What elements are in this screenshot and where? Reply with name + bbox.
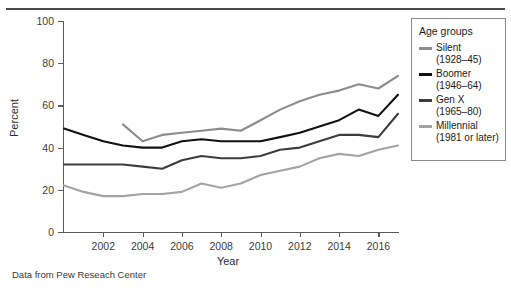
legend-color-swatch bbox=[419, 99, 432, 102]
x-tick-label: 2010 bbox=[241, 240, 281, 252]
y-tick-label: 0 bbox=[24, 227, 54, 237]
x-tick-mark bbox=[339, 232, 340, 237]
y-axis-label: Percent bbox=[8, 88, 20, 148]
legend-item-label: Millennial bbox=[436, 120, 499, 132]
chart-figure: 020406080100 200220042006200820102012201… bbox=[0, 0, 511, 294]
x-tick-label: 2016 bbox=[358, 240, 398, 252]
x-tick-label: 2006 bbox=[162, 240, 202, 252]
x-tick-mark bbox=[261, 232, 262, 237]
y-tick-label: 20 bbox=[24, 185, 54, 195]
legend-color-swatch bbox=[419, 125, 432, 128]
x-tick-label: 2014 bbox=[319, 240, 359, 252]
x-tick-label: 2002 bbox=[83, 240, 123, 252]
legend-item-label: Silent bbox=[436, 42, 482, 54]
x-tick-label: 2012 bbox=[280, 240, 320, 252]
legend-item[interactable]: Silent(1928–45) bbox=[419, 42, 505, 65]
y-tick-mark bbox=[58, 190, 63, 191]
legend-color-swatch bbox=[419, 47, 432, 50]
legend-item-years: (1946–64) bbox=[436, 80, 482, 92]
legend-color-swatch bbox=[419, 73, 432, 76]
figure-caption: Data from Pew Reseach Center bbox=[12, 269, 146, 280]
y-tick-mark bbox=[58, 148, 63, 149]
clipped-title-text bbox=[150, 0, 505, 4]
series-line bbox=[64, 146, 398, 197]
x-tick-mark bbox=[103, 232, 104, 237]
y-tick-label: 60 bbox=[24, 100, 54, 110]
x-tick-mark bbox=[378, 232, 379, 237]
y-tick-mark bbox=[58, 21, 63, 22]
x-tick-mark bbox=[221, 232, 222, 237]
legend-box: Age groups Silent(1928–45)Boomer(1946–64… bbox=[411, 18, 506, 161]
y-tick-label: 80 bbox=[24, 58, 54, 68]
y-tick-mark bbox=[58, 105, 63, 106]
series-line bbox=[123, 76, 398, 141]
x-tick-mark bbox=[143, 232, 144, 237]
x-tick-mark bbox=[300, 232, 301, 237]
legend-items: Silent(1928–45)Boomer(1946–64)Gen X(1965… bbox=[419, 42, 505, 143]
y-axis-line bbox=[63, 21, 64, 233]
y-tick-label: 100 bbox=[24, 16, 54, 26]
x-tick-mark bbox=[182, 232, 183, 237]
legend-item-years: (1928–45) bbox=[436, 54, 482, 66]
y-tick-label: 40 bbox=[24, 143, 54, 153]
top-divider bbox=[6, 8, 505, 10]
y-tick-mark bbox=[58, 232, 63, 233]
x-tick-label: 2008 bbox=[201, 240, 241, 252]
legend-item-label: Boomer bbox=[436, 68, 482, 80]
x-axis-line bbox=[63, 232, 399, 233]
series-line bbox=[64, 114, 398, 169]
legend-item-years: (1965–80) bbox=[436, 106, 482, 118]
legend-item-years: (1981 or later) bbox=[436, 132, 499, 144]
x-tick-label: 2004 bbox=[123, 240, 163, 252]
legend-title: Age groups bbox=[419, 25, 505, 37]
legend-item[interactable]: Millennial(1981 or later) bbox=[419, 120, 505, 143]
y-tick-mark bbox=[58, 63, 63, 64]
legend-item[interactable]: Gen X(1965–80) bbox=[419, 94, 505, 117]
series-line bbox=[64, 95, 398, 148]
legend-item-label: Gen X bbox=[436, 94, 482, 106]
legend-item[interactable]: Boomer(1946–64) bbox=[419, 68, 505, 91]
x-axis-label: Year bbox=[188, 255, 268, 267]
